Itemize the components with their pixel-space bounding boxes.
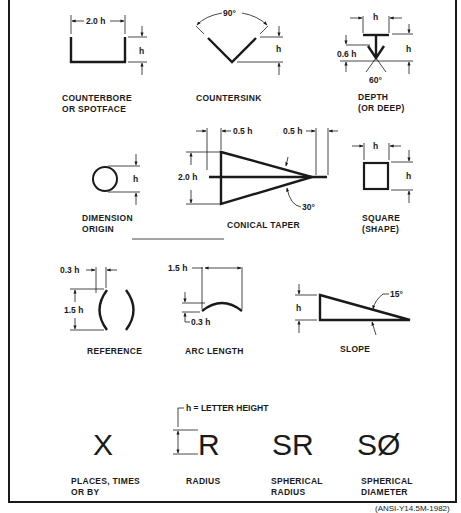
countersink-symbol: 90° h COUNTERSINK: [196, 8, 283, 103]
conical-taper-label: CONICAL TAPER: [227, 220, 300, 230]
square-height-dim: h: [406, 171, 411, 181]
reference-label: REFERENCE: [87, 346, 142, 356]
counterbore-symbol: 2.0 h h COUNTERBORE OR SPOTFACE: [62, 15, 147, 114]
countersink-angle: 90°: [223, 8, 236, 18]
dimension-origin-height-dim: h: [133, 174, 138, 184]
counterbore-label: COUNTERBORE: [62, 93, 132, 103]
dimension-origin-symbol: h DIMENSION ORIGIN: [82, 154, 140, 234]
spherical-radius-symbol: SR SPHERICAL RADIUS: [271, 428, 323, 497]
taper-left-dim: 0.5 h: [233, 126, 252, 136]
spherical-diameter-symbol: SØ SPHERICAL DIAMETER: [357, 428, 413, 497]
dimension-origin-label: DIMENSION: [82, 213, 133, 223]
spherical-radius-glyph: SR: [272, 428, 314, 461]
radius-label: RADIUS: [186, 476, 220, 486]
countersink-label: COUNTERSINK: [196, 93, 262, 103]
spherical-diameter-glyph: SØ: [357, 428, 400, 461]
arc-length-label: ARC LENGTH: [185, 346, 244, 356]
radius-symbol: R RADIUS: [173, 428, 220, 486]
depth-width-dim: h: [373, 12, 378, 22]
radius-glyph: R: [198, 428, 220, 461]
taper-height-dim: 2.0 h: [178, 172, 197, 182]
depth-stem-dim: 0.6 h: [337, 49, 356, 59]
depth-label-2: (OR DEEP): [358, 103, 405, 113]
square-label: SQUARE: [362, 213, 400, 223]
slope-label: SLOPE: [340, 344, 370, 354]
frame-border: [9, 0, 456, 502]
depth-label: DEPTH: [358, 92, 388, 102]
spherical-radius-label: SPHERICAL: [271, 476, 323, 486]
letter-height-text: h = LETTER HEIGHT: [186, 403, 269, 413]
spherical-diameter-label-2: DIAMETER: [361, 487, 408, 497]
conical-taper-symbol: 0.5 h 0.5 h 2.0 h 30° CONICAL TAPER: [178, 126, 338, 230]
taper-right-dim: 0.5 h: [283, 126, 302, 136]
dimension-origin-label-2: ORIGIN: [82, 224, 114, 234]
spherical-diameter-label: SPHERICAL: [361, 476, 413, 486]
letter-height-note: h = LETTER HEIGHT: [178, 403, 269, 427]
reference-symbol: 0.3 h 1.5 h REFERENCE: [60, 265, 142, 356]
reference-gap-dim: 0.3 h: [60, 265, 79, 275]
places-symbol: X PLACES, TIMES OR BY: [71, 428, 140, 497]
spherical-radius-label-2: RADIUS: [271, 487, 305, 497]
taper-angle: 30°: [302, 202, 315, 212]
square-width-dim: h: [373, 141, 378, 151]
arc-length-symbol: 1.5 h 0.3 h ARC LENGTH: [168, 263, 244, 356]
counterbore-label-2: OR SPOTFACE: [62, 104, 126, 114]
dimensioning-symbols-chart: 2.0 h h COUNTERBORE OR SPOTFACE 90° h CO…: [0, 0, 461, 513]
counterbore-height-dim: h: [139, 46, 144, 56]
depth-angle: 60°: [369, 75, 382, 85]
slope-height-dim: h: [296, 303, 301, 313]
depth-height-dim: h: [406, 44, 411, 54]
square-symbol: h h SQUARE (SHAPE): [352, 141, 413, 234]
arc-rise-dim: 0.3 h: [191, 317, 210, 327]
square-label-2: (SHAPE): [362, 224, 399, 234]
counterbore-width-dim: 2.0 h: [86, 16, 105, 26]
reference-height-dim: 1.5 h: [64, 305, 83, 315]
source-caption: (ANSI-Y14.5M-1982): [375, 504, 450, 513]
slope-symbol: h 15° SLOPE: [295, 284, 410, 354]
places-label: PLACES, TIMES: [71, 476, 140, 486]
places-glyph: X: [93, 428, 113, 461]
countersink-height-dim: h: [276, 44, 281, 54]
places-label-2: OR BY: [71, 487, 99, 497]
slope-angle: 15°: [390, 289, 403, 299]
arc-width-dim: 1.5 h: [168, 263, 187, 273]
depth-symbol: h h 0.6 h 60° DEPTH (OR DEEP): [337, 12, 413, 113]
